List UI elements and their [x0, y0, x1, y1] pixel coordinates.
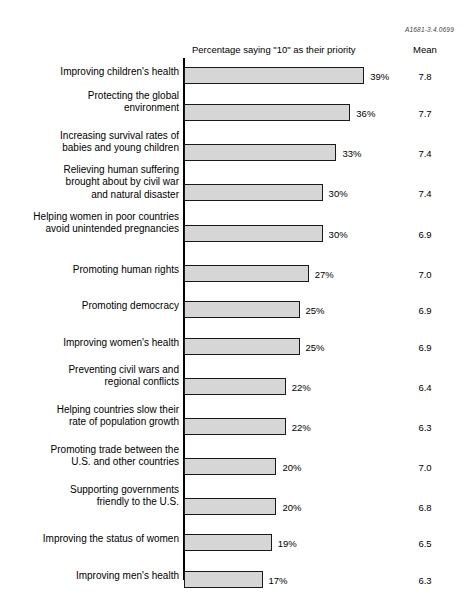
bar-value-label: 25% — [306, 342, 325, 353]
value-bar — [184, 338, 300, 355]
value-bar — [184, 144, 336, 161]
category-label: Promoting trade between the U.S. and oth… — [7, 444, 179, 469]
mean-value: 6.9 — [404, 305, 446, 316]
mean-value: 7.0 — [404, 462, 446, 473]
bar-value-label: 22% — [292, 382, 311, 393]
category-label: Improving women's health — [7, 337, 179, 349]
category-label: Improving the status of women — [7, 533, 179, 545]
category-label: Helping women in poor countries avoid un… — [7, 211, 179, 236]
value-bar — [184, 571, 263, 588]
category-label: Preventing civil wars and regional confl… — [7, 364, 179, 389]
value-bar — [184, 67, 364, 84]
bar-value-label: 17% — [269, 575, 288, 586]
category-label: Promoting human rights — [7, 264, 179, 276]
value-bar — [184, 225, 323, 242]
bar-value-label: 22% — [292, 422, 311, 433]
value-bar — [184, 498, 276, 515]
bar-value-label: 27% — [315, 269, 334, 280]
reference-code: A1681-3.4.0699 — [405, 26, 454, 33]
mean-value: 7.7 — [404, 108, 446, 119]
value-bar — [184, 378, 286, 395]
category-label: Helping countries slow their rate of pop… — [7, 404, 179, 429]
mean-value: 7.0 — [404, 269, 446, 280]
value-bar — [184, 104, 350, 121]
mean-value: 6.9 — [404, 229, 446, 240]
category-label: Protecting the global environment — [7, 90, 179, 115]
value-bar — [184, 418, 286, 435]
value-bar — [184, 265, 309, 282]
mean-value: 7.4 — [404, 148, 446, 159]
column-headers: Percentage saying "10" as their priority… — [0, 44, 462, 58]
value-bar — [184, 458, 276, 475]
mean-value: 7.8 — [404, 71, 446, 82]
mean-value: 6.4 — [404, 382, 446, 393]
mean-value: 6.3 — [404, 575, 446, 586]
category-label: Supporting governments friendly to the U… — [7, 484, 179, 509]
plot-area: Improving children's health39%7.8Protect… — [0, 58, 462, 580]
mean-value: 6.5 — [404, 538, 446, 549]
chart-figure: A1681-3.4.0699 Percentage saying "10" as… — [0, 0, 462, 594]
mean-column-header: Mean — [404, 44, 446, 55]
bar-value-label: 33% — [342, 148, 361, 159]
bar-value-label: 25% — [306, 305, 325, 316]
bar-value-label: 19% — [278, 538, 297, 549]
mean-value: 6.8 — [404, 502, 446, 513]
mean-value: 7.4 — [404, 188, 446, 199]
bar-value-label: 20% — [282, 502, 301, 513]
percentage-column-header: Percentage saying "10" as their priority — [192, 44, 356, 55]
bar-value-label: 36% — [356, 108, 375, 119]
bar-value-label: 30% — [329, 188, 348, 199]
bar-value-label: 20% — [282, 462, 301, 473]
category-label: Improving children's health — [7, 66, 179, 78]
category-label: Increasing survival rates of babies and … — [7, 130, 179, 155]
mean-value: 6.3 — [404, 422, 446, 433]
mean-value: 6.9 — [404, 342, 446, 353]
bar-value-label: 39% — [370, 71, 389, 82]
category-label: Relieving human suffering brought about … — [7, 164, 179, 201]
value-bar — [184, 534, 272, 551]
category-label: Improving men's health — [7, 570, 179, 582]
bar-value-label: 30% — [329, 229, 348, 240]
category-label: Promoting democracy — [7, 300, 179, 312]
value-bar — [184, 184, 323, 201]
value-bar — [184, 301, 300, 318]
